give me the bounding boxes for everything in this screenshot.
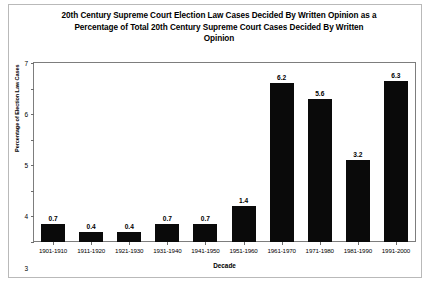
bar-value-label: 0.7	[201, 215, 210, 222]
bar-group: 3.21981-1990	[339, 63, 377, 242]
bar[interactable]	[270, 83, 294, 242]
bar-group: 5.61971-1980	[301, 63, 339, 242]
x-axis-tick-label: 1981-1990	[344, 247, 372, 254]
bar-group: 6.31991-2000	[377, 63, 415, 242]
bar[interactable]	[193, 224, 217, 242]
x-axis-tick-mark	[205, 242, 206, 245]
bar-value-label: 0.7	[48, 215, 57, 222]
y-axis-tick-label: 6	[24, 111, 28, 118]
x-axis-tick-label: 1921-1930	[115, 247, 143, 254]
bar-value-label: 1.4	[239, 197, 248, 204]
y-axis-tick-label: 5	[24, 162, 28, 169]
bar[interactable]	[384, 81, 408, 242]
x-axis-tick-label: 1991-2000	[382, 247, 410, 254]
x-axis-tick-mark	[320, 242, 321, 245]
bar[interactable]	[232, 206, 256, 242]
bar[interactable]	[346, 160, 370, 242]
bar-value-label: 3.2	[353, 151, 362, 158]
y-axis-label: Percentage of Election Law Cases	[14, 64, 20, 152]
bar-group: 0.41921-1930	[110, 63, 148, 242]
y-axis-tick-label: 3	[24, 264, 28, 271]
x-axis-tick-mark	[129, 242, 130, 245]
x-axis-tick-mark	[53, 242, 54, 245]
chart-title-line-1: 20th Century Supreme Court Election Law …	[30, 10, 408, 22]
chart-title: 20th Century Supreme Court Election Law …	[30, 10, 408, 45]
x-axis-tick-label: 1911-1920	[77, 247, 105, 254]
bar-group: 6.21961-1970	[263, 63, 301, 242]
y-axis-tick-label: 4	[24, 213, 28, 220]
x-axis-tick-mark	[91, 242, 92, 245]
bar-value-label: 6.3	[391, 72, 400, 79]
bar-value-label: 0.4	[125, 223, 134, 230]
bar-group: 1.41951-1960	[225, 63, 263, 242]
x-axis-label: Decade	[33, 262, 416, 269]
bar-group: 0.71931-1940	[148, 63, 186, 242]
x-axis-tick-mark	[396, 242, 397, 245]
x-axis-tick-mark	[282, 242, 283, 245]
bar-group: 0.71941-1950	[186, 63, 224, 242]
bar[interactable]	[117, 232, 141, 242]
bar[interactable]	[41, 224, 65, 242]
x-axis-tick-label: 1951-1960	[229, 247, 257, 254]
y-axis-tick-mark: 0	[31, 242, 34, 243]
bar-value-label: 5.6	[315, 90, 324, 97]
x-axis-tick-mark	[244, 242, 245, 245]
x-axis-tick-mark	[358, 242, 359, 245]
x-axis-tick-mark	[167, 242, 168, 245]
bar[interactable]	[79, 232, 103, 242]
bar-value-label: 0.4	[87, 223, 96, 230]
plot-area: 01234567 0.71901-19100.41911-19200.41921…	[34, 63, 415, 242]
bar[interactable]	[155, 224, 179, 242]
bar-group: 0.41911-1920	[72, 63, 110, 242]
x-axis-tick-label: 1941-1950	[191, 247, 219, 254]
x-axis-tick-label: 1971-1980	[306, 247, 334, 254]
bar-group: 0.71901-1910	[34, 63, 72, 242]
bar-value-label: 0.7	[163, 215, 172, 222]
chart-title-line-2: Percentage of Total 20th Century Supreme…	[30, 22, 408, 34]
bar-value-label: 6.2	[277, 74, 286, 81]
x-axis-tick-label: 1931-1940	[153, 247, 181, 254]
chart-figure: 20th Century Supreme Court Election Law …	[0, 0, 434, 290]
y-axis-tick-label: 7	[24, 60, 28, 67]
x-axis-tick-label: 1961-1970	[268, 247, 296, 254]
chart-title-line-3: Opinion	[30, 33, 408, 45]
x-axis-tick-label: 1901-1910	[39, 247, 67, 254]
bar[interactable]	[308, 99, 332, 242]
